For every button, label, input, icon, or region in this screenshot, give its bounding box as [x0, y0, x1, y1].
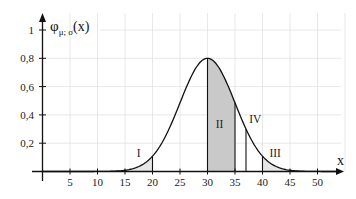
- x-tick-label: 30: [202, 176, 214, 188]
- x-tick-label: 35: [230, 176, 242, 188]
- y-axis-label-subscript: μ; σ: [59, 27, 74, 37]
- y-axis-arrow-icon: [39, 13, 46, 22]
- x-tick-label: 5: [67, 176, 73, 188]
- y-tick-label: 0,8: [20, 52, 34, 64]
- region-II-fill: [208, 58, 236, 171]
- x-tick-label: 15: [120, 176, 132, 188]
- region-label-IV: IV: [249, 113, 262, 125]
- y-axis-label-tail: (x): [73, 19, 90, 35]
- region-label-I: I: [137, 147, 141, 159]
- normal-distribution-chart: x φμ; σ(x) 5101520253035404550 0,20,40,6…: [0, 0, 356, 199]
- x-axis-label: x: [337, 153, 344, 168]
- y-tick-label: 0,2: [20, 137, 34, 149]
- x-tick-label: 10: [92, 176, 104, 188]
- x-tick-label: 25: [175, 176, 187, 188]
- x-tick-label: 40: [257, 176, 269, 188]
- y-tick-label: 0,4: [20, 109, 34, 121]
- y-axis-label-main: φ: [50, 18, 59, 34]
- x-axis: x: [32, 153, 344, 175]
- region-label-III: III: [269, 147, 281, 159]
- x-axis-arrow-icon: [336, 168, 344, 175]
- grid-lines: [43, 13, 346, 172]
- x-tick-label: 45: [285, 176, 297, 188]
- y-tick-label: 0,6: [20, 81, 34, 93]
- region-label-II: II: [216, 118, 224, 130]
- y-tick-label: 1: [29, 24, 35, 36]
- y-axis: φμ; σ(x): [39, 13, 90, 181]
- x-tick-label: 50: [312, 176, 324, 188]
- x-tick-label: 20: [147, 176, 159, 188]
